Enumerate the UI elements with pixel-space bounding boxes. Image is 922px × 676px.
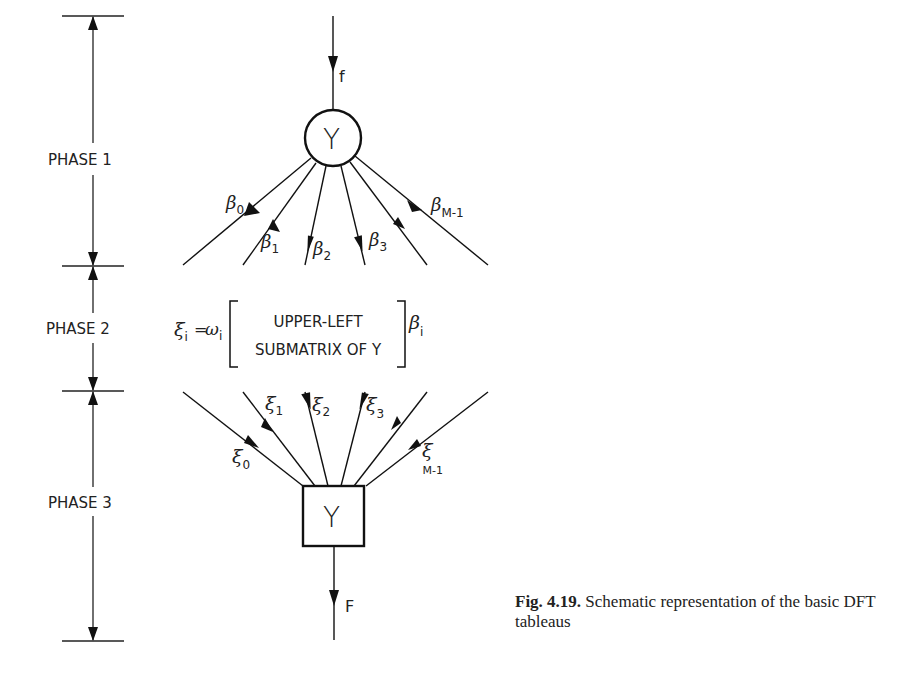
xi3-label: ξ3: [366, 393, 384, 421]
xi0-label: ξ0: [232, 445, 250, 472]
omega-i: ωi: [205, 319, 222, 343]
arrow-down-icon: [329, 590, 339, 606]
circle-y-label: Y: [323, 123, 340, 156]
beta1-label: β1: [260, 231, 279, 256]
figure-caption: Fig. 4.19. Schematic representation of t…: [515, 592, 915, 632]
arrow-icon: [244, 202, 260, 216]
right-bracket: [397, 301, 405, 367]
left-bracket: [230, 301, 238, 367]
phase2-equation: ξi = ωi UPPER-LEFT SUBMATRIX OF Y βi: [174, 301, 423, 367]
xi-labels: ξ0 ξ1 ξ2 ξ3 ξM-1: [232, 392, 443, 477]
xi-i: ξi: [174, 318, 188, 344]
arrow-icon: [407, 200, 422, 212]
matrix-line-1: UPPER-LEFT: [273, 313, 363, 331]
betaM1-label: βM-1: [430, 194, 464, 220]
xi1-label: ξ1: [265, 392, 283, 418]
phase3-label: PHASE 3: [48, 494, 112, 512]
xi2-label: ξ2: [312, 393, 330, 419]
arrow-down-icon: [88, 377, 98, 391]
arrow-up-icon: [88, 16, 98, 30]
output-F-label: F: [345, 597, 354, 616]
beta0-label: β0: [225, 192, 244, 217]
arrow-down-icon: [88, 252, 98, 266]
xiM1-label: ξM-1: [422, 439, 443, 477]
arrow-icon: [261, 418, 273, 432]
box-y-label: Y: [323, 501, 340, 534]
arrow-up-icon: [88, 266, 98, 280]
arrow-down-icon: [88, 627, 98, 641]
input-f-label: f: [339, 67, 345, 86]
phase1-label: PHASE 1: [48, 151, 112, 169]
beta2-label: β2: [312, 238, 331, 263]
arrow-icon: [354, 235, 365, 252]
phase2-label: PHASE 2: [46, 320, 110, 338]
beta-i: βi: [408, 311, 423, 339]
dft-tableau-diagram: PHASE 1 PHASE 2 PHASE 3 f Y β0 β1 β2 β3 …: [0, 0, 922, 676]
beta-labels: β0 β1 β2 β3 βM-1: [225, 192, 464, 263]
beta3-ray: [341, 166, 365, 265]
beta3-label: β3: [368, 229, 387, 254]
arrow-up-icon: [88, 391, 98, 405]
caption-number: Fig. 4.19.: [515, 592, 581, 611]
matrix-line-2: SUBMATRIX OF Y: [255, 341, 382, 359]
xi-extra-ray: [354, 392, 427, 486]
arrow-down-icon: [328, 56, 338, 72]
